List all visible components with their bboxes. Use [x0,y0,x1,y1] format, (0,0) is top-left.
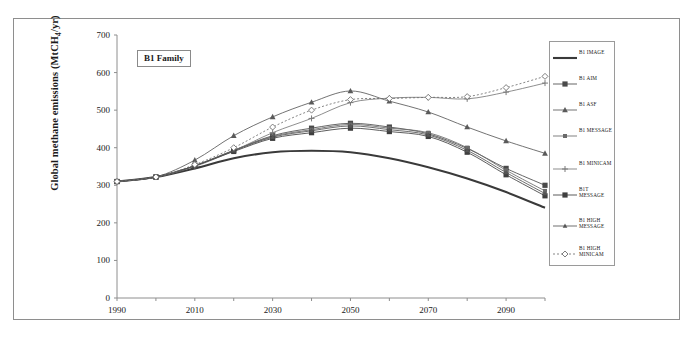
data-point-marker [348,88,354,93]
data-point-marker [425,94,431,100]
legend-symbol [552,161,578,173]
legend-symbol [552,128,578,140]
legend-item-b1-high-minicam[interactable]: B1 HIGH MINICAM [550,246,616,272]
data-point-marker [231,133,237,138]
chart-legend: B1 IMAGEB1 AIMB1 ASFB1 MESSAGEB1 MINICAM… [549,41,615,266]
legend-label: B1T MESSAGE [579,186,615,199]
x-tick-label: 2010 [186,305,205,315]
y-tick-label: 400 [97,143,111,153]
y-tick-label: 200 [97,218,111,228]
legend-label: B1 IMAGE [579,49,615,55]
y-tick-label: 500 [97,105,111,115]
chart-page: Global methane emissions (MtCH4/yr) B1 F… [0,0,692,338]
data-point-marker [503,85,509,91]
series-b1t-message [114,126,547,199]
series-line [117,76,545,181]
x-tick-label: 1990 [108,305,127,315]
y-tick-label: 700 [97,30,111,40]
x-tick-label: 2090 [497,305,516,315]
legend-symbol [552,102,578,114]
y-tick-label: 600 [97,68,111,78]
x-tick-label: 2050 [341,305,360,315]
series-b1-asf [114,88,548,184]
legend-label: B1 MESSAGE [579,127,615,133]
series-b1-minicam [114,80,548,184]
y-tick-label: 300 [97,180,111,190]
y-tick-label: 0 [106,293,111,303]
x-tick-label: 2070 [419,305,438,315]
legend-symbol [552,246,578,258]
legend-item-b1-message[interactable]: B1 MESSAGE [550,128,616,154]
legend-label: B1 HIGH MINICAM [579,245,615,258]
data-point-marker [309,107,315,113]
legend-item-b1-image[interactable]: B1 IMAGE [550,50,616,76]
series-line [117,91,545,182]
series-line [117,128,545,196]
data-point-marker [542,183,547,188]
legend-label: B1 ASF [579,101,615,107]
legend-label: B1 MINICAM [579,160,615,166]
data-point-marker [562,251,568,257]
data-point-marker [542,73,548,79]
legend-symbol [552,218,578,230]
y-tick-label: 100 [97,255,111,265]
data-point-marker [562,81,567,86]
legend-label: B1 HIGH MESSAGE [579,217,615,230]
legend-label: B1 AIM [579,75,615,81]
data-point-marker [563,134,567,138]
data-point-marker [270,124,276,130]
legend-symbol [552,50,578,62]
series-b1-aim [114,121,547,188]
series-line [117,123,545,185]
legend-item-b1-aim[interactable]: B1 AIM [550,76,616,102]
legend-symbol [552,187,578,199]
legend-item-b1-asf[interactable]: B1 ASF [550,102,616,128]
legend-item-b1t-message[interactable]: B1T MESSAGE [550,187,616,213]
legend-symbol [552,76,578,88]
legend-item-b1-minicam[interactable]: B1 MINICAM [550,161,616,187]
legend-item-b1-high-message[interactable]: B1 HIGH MESSAGE [550,218,616,244]
x-tick-label: 2030 [264,305,283,315]
data-point-marker [562,192,567,197]
